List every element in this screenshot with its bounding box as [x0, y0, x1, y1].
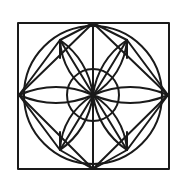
geometric-rosette-diagram — [0, 0, 177, 175]
petal-left — [19, 87, 93, 103]
petal-right — [93, 87, 168, 103]
